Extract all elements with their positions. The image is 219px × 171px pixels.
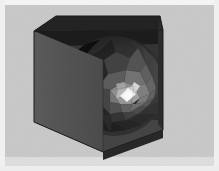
scene-viewport [0,0,219,171]
grain-overlay [0,0,219,171]
image-canvas: Faceted sphere inside open cube flat-sha… [0,0,219,171]
3d-scene-render [0,0,219,171]
